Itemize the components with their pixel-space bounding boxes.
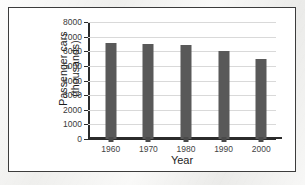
y-tick-mark xyxy=(84,95,88,96)
x-tick-label: 1960 xyxy=(101,144,120,154)
y-gridline xyxy=(88,139,276,140)
y-tick-label: 8000 xyxy=(63,17,82,27)
y-tick-label: 1000 xyxy=(63,119,82,129)
y-tick-label: 4000 xyxy=(63,76,82,86)
y-tick-label: 6000 xyxy=(63,46,82,56)
chart-frame: Passenger cars (thousands) 8000700060005… xyxy=(8,7,296,172)
bar xyxy=(143,44,154,139)
y-tick-mark xyxy=(84,124,88,125)
y-tick-mark xyxy=(84,22,88,23)
y-gridline xyxy=(88,37,276,38)
y-tick-mark xyxy=(84,110,88,111)
y-tick-mark xyxy=(84,139,88,140)
x-tick-mark xyxy=(259,137,264,142)
y-tick-label: 5000 xyxy=(63,61,82,71)
bar xyxy=(105,43,116,139)
y-tick-label: 0 xyxy=(77,134,82,144)
y-tick-mark xyxy=(84,51,88,52)
x-tick-label: 1990 xyxy=(214,144,233,154)
bar xyxy=(256,59,267,139)
x-tick-label: 2000 xyxy=(252,144,271,154)
plot-area: 8000700060005000400030002000100001960197… xyxy=(88,22,276,139)
y-tick-label: 3000 xyxy=(63,90,82,100)
x-axis-title: Year xyxy=(88,154,276,166)
y-tick-mark xyxy=(84,37,88,38)
chart-canvas: Passenger cars (thousands) 8000700060005… xyxy=(9,8,295,171)
y-tick-label: 7000 xyxy=(63,32,82,42)
y-tick-mark xyxy=(84,81,88,82)
y-gridline xyxy=(88,22,276,23)
bar xyxy=(218,51,229,139)
figure-page: Passenger cars (thousands) 8000700060005… xyxy=(0,0,305,185)
x-tick-mark xyxy=(108,137,113,142)
x-tick-mark xyxy=(184,137,189,142)
y-tick-mark xyxy=(84,66,88,67)
y-tick-label: 2000 xyxy=(63,105,82,115)
x-tick-label: 1980 xyxy=(177,144,196,154)
bar xyxy=(181,45,192,139)
x-tick-mark xyxy=(221,137,226,142)
x-tick-mark xyxy=(146,137,151,142)
x-tick-label: 1970 xyxy=(139,144,158,154)
